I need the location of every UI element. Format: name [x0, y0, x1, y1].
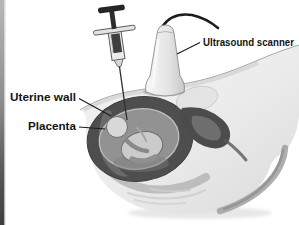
page-edge-soft-edge — [5, 0, 6, 225]
label-placenta: Placenta — [28, 120, 77, 132]
label-uterine-wall: Uterine wall — [10, 91, 76, 103]
medical-diagram-figure: Ultrasound scanner Uterine wall Placenta — [0, 0, 299, 225]
label-ultrasound-scanner: Ultrasound scanner — [203, 36, 295, 48]
page-edge-shadow-bar — [0, 0, 5, 225]
fetus-head — [107, 117, 128, 138]
diagram-canvas: Ultrasound scanner Uterine wall Placenta — [0, 0, 299, 225]
